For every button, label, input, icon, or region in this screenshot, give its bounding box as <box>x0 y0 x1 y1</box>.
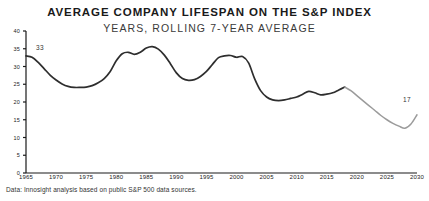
source-note: Data: Innosight analysis based on public… <box>6 186 197 193</box>
y-axis-tick-label: 20 <box>4 99 20 105</box>
data-point-label: 33 <box>36 44 44 51</box>
x-axis-tick-label: 2020 <box>342 174 372 180</box>
y-axis-tick-label: 30 <box>4 64 20 70</box>
y-axis-tick-label: 35 <box>4 46 20 52</box>
x-axis-tick-label: 2015 <box>312 174 342 180</box>
x-axis-tick-label: 1965 <box>11 174 41 180</box>
x-axis-tick-label: 2010 <box>282 174 312 180</box>
x-axis-tick-label: 1985 <box>131 174 161 180</box>
x-axis-tick-label: 1980 <box>101 174 131 180</box>
y-axis-tick-label: 5 <box>4 152 20 158</box>
series-line-historical <box>26 47 345 101</box>
y-axis-tick-label: 10 <box>4 135 20 141</box>
series-line-projected <box>345 87 417 128</box>
x-axis-tick-label: 2025 <box>372 174 402 180</box>
x-axis-tick-label: 1970 <box>41 174 71 180</box>
x-axis-tick-label: 1995 <box>191 174 221 180</box>
data-point-label: 17 <box>403 96 411 103</box>
x-axis-tick-label: 2030 <box>402 174 429 180</box>
x-axis-tick-label: 1990 <box>161 174 191 180</box>
x-axis-tick-label: 2005 <box>252 174 282 180</box>
x-axis-tick-label: 2000 <box>222 174 252 180</box>
x-axis-tick-label: 1975 <box>71 174 101 180</box>
axis-lines <box>26 31 417 173</box>
y-axis-tick-label: 40 <box>4 28 20 34</box>
y-axis-tick-label: 25 <box>4 81 20 87</box>
y-axis-tick-label: 15 <box>4 117 20 123</box>
